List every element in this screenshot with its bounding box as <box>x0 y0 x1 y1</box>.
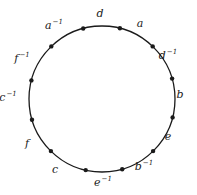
edge-labels-group: dad−1beb−1e−1cfc−1f−1a−1 <box>0 7 184 189</box>
vertex-dot <box>29 78 33 82</box>
edge-label-base: f <box>24 137 31 150</box>
edge-label: d <box>96 7 103 20</box>
edge-label-base: d <box>159 49 166 62</box>
edge-label-base: c <box>52 163 58 176</box>
edge-label-base: b <box>176 88 183 101</box>
edge-label-exponent: −1 <box>53 18 63 26</box>
edge-label-exponent: −1 <box>143 159 153 167</box>
edge-label-base: c <box>0 91 5 104</box>
vertex-dot <box>49 44 53 48</box>
vertex-dot <box>170 76 174 80</box>
edge-label-exponent: −1 <box>19 51 29 59</box>
edge-label: a <box>137 17 144 30</box>
vertex-dot <box>170 115 174 119</box>
edge-label: f <box>24 137 31 150</box>
edge-label-exponent: −1 <box>6 90 16 98</box>
edge-label-base: e <box>165 130 172 143</box>
vertex-dot <box>151 149 155 153</box>
edge-label: c <box>52 163 58 176</box>
edge-label: b−1 <box>135 159 153 173</box>
vertex-dot <box>30 118 34 122</box>
polygon-diagram: dad−1beb−1e−1cfc−1f−1a−1 <box>0 0 197 195</box>
vertices-group <box>29 26 175 172</box>
vertex-dot <box>84 168 88 172</box>
edge-label-exponent: −1 <box>102 175 112 183</box>
edge-label: b <box>176 88 183 101</box>
edge-label-exponent: −1 <box>167 48 177 56</box>
vertex-dot <box>151 44 155 48</box>
edge-label: e−1 <box>94 175 112 189</box>
edge-label-base: b <box>135 160 142 173</box>
edge-label: f−1 <box>13 51 29 65</box>
vertex-dot <box>120 167 124 171</box>
vertex-dot <box>81 26 85 30</box>
edge-label: a−1 <box>45 18 63 32</box>
edge-label: c−1 <box>0 90 17 104</box>
vertex-dot <box>49 149 53 153</box>
vertex-dot <box>118 26 122 30</box>
edge-label: e <box>165 130 172 143</box>
edge-label-base: d <box>96 7 103 20</box>
edge-label: d−1 <box>159 48 177 62</box>
edge-label-base: a <box>137 17 144 30</box>
edge-label-base: a <box>45 19 52 32</box>
edge-label-base: e <box>94 176 101 189</box>
